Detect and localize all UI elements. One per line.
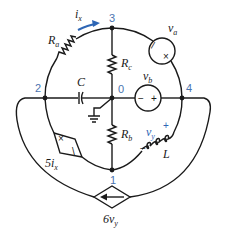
vy-minus-sign: − [140, 143, 146, 154]
circuit-diagram: \ × × \ − + 3 2 0 4 1 ix Ra Rc [0, 0, 237, 241]
wire-0-to-ground [94, 98, 112, 116]
node-label-4: 4 [186, 82, 192, 94]
resistor-rc [108, 55, 116, 74]
ix-arrowhead [92, 20, 100, 27]
node-dot-3 [110, 26, 115, 31]
node-label-0: 0 [118, 83, 124, 95]
vb-minus-sign: − [138, 93, 144, 104]
5ix-label: 5ix [45, 156, 58, 172]
wire-2-outer-loop [16, 98, 94, 197]
vy-plus-sign: + [163, 120, 169, 131]
node-dot-2 [43, 96, 48, 101]
5ix-plus-sign: × [58, 133, 64, 144]
wire-va-to-4 [171, 61, 182, 98]
node-label-1: 1 [110, 174, 116, 186]
wire-4-to-inductor [174, 98, 182, 132]
node-label-3: 3 [109, 12, 115, 24]
wire-3-to-va [112, 28, 153, 41]
vb-plus-sign: + [151, 93, 157, 104]
vy-label: vy [146, 125, 155, 141]
ground-icon [88, 116, 100, 122]
rb-label: Rb [120, 127, 132, 143]
wire-ra-to-3 [76, 28, 112, 39]
va-label: va [168, 21, 177, 37]
node-dot-1 [110, 168, 115, 173]
va-plus-sign: × [163, 51, 169, 62]
node-label-2: 2 [35, 82, 41, 94]
wire-inductor-to-1 [112, 151, 142, 170]
wire-5ix-to-2 [45, 98, 54, 133]
wire-1-to-5ix [82, 157, 112, 170]
c-label: C [77, 75, 86, 89]
l-label: L [162, 147, 170, 161]
ix-label: ix [75, 7, 82, 23]
node-dot-4 [180, 96, 185, 101]
6vy-label: 6vy [103, 212, 118, 228]
ra-label: Ra [47, 33, 59, 49]
resistor-rb [108, 125, 116, 144]
resistor-ra [57, 36, 76, 58]
rc-label: Rc [120, 56, 132, 72]
node-dot-0 [110, 96, 115, 101]
5ix-minus-sign: \ [72, 146, 75, 157]
vb-label: vb [143, 69, 152, 85]
wire-2-to-ra [45, 58, 57, 98]
